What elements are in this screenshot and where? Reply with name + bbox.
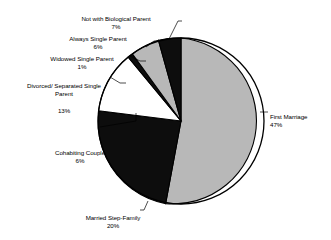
pie-label-value: 47% [270, 121, 330, 129]
leader-line-not-with-biological-parent [169, 21, 182, 39]
pie-label-value: 20% [58, 222, 168, 230]
pie-label-value: 6% [30, 157, 130, 165]
pie-label-cohabiting-couple: Cohabiting Couple 6% [30, 141, 130, 174]
pie-label-text: Cohabiting Couple [55, 149, 105, 156]
pie-chart-figure: Not with Biological Parent 7% Always Sin… [0, 0, 331, 240]
pie-label-text-line2: Parent [8, 90, 120, 98]
pie-label-text: Always Single Parent [69, 35, 126, 42]
pie-label-text: Married Step-Family [86, 214, 141, 221]
pie-label-value: 1% [26, 63, 138, 71]
pie-label-text: Not with Biological Parent [81, 15, 150, 22]
pie-label-married-step-family: Married Step-Family 20% [58, 206, 168, 239]
pie-label-text: Widowed Single Parent [50, 55, 113, 62]
pie-label-divorced-separated-single-parent: Divorced/ Separated Single Parent 13% [8, 74, 120, 123]
pie-label-first-marriage: First Marriage 47% [270, 105, 330, 138]
pie-label-text: First Marriage [270, 113, 307, 120]
pie-label-value: 13% [8, 107, 120, 115]
pie-label-text-line1: Divorced/ Separated Single [27, 82, 101, 89]
